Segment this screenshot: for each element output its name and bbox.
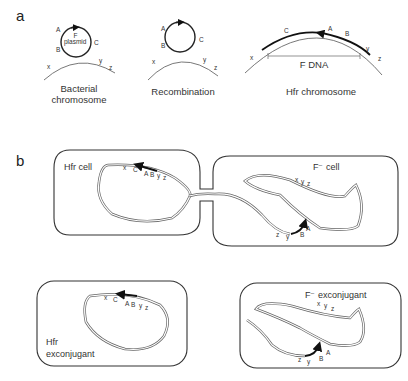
hfr-arrow-icon bbox=[319, 33, 324, 34]
gene-A: A bbox=[125, 300, 130, 307]
gene-z: z bbox=[163, 174, 166, 181]
gene-z: z bbox=[298, 356, 301, 363]
plasmid-arrow-icon bbox=[71, 27, 77, 28]
gene-x: x bbox=[250, 54, 254, 61]
caption-hfr-chromosome: Hfr chromosome bbox=[286, 86, 356, 97]
caption-recombination: Recombination bbox=[151, 86, 214, 97]
hfr-exconjugant-label-2: exconjugant bbox=[46, 349, 95, 359]
stage-hfr-chromosome: C A B x y z F DNA Hfr chromosome bbox=[245, 25, 382, 97]
f-minus-cell-chromosome: x y z z y B A bbox=[245, 175, 362, 241]
gene-B: B bbox=[131, 301, 135, 308]
f-minus-exconjugant-label: F⁻ exconjugant bbox=[305, 290, 367, 300]
gene-A: A bbox=[306, 225, 311, 232]
panel-a-label: a bbox=[16, 7, 25, 24]
gene-A: A bbox=[328, 25, 333, 32]
plasmid-circle bbox=[165, 22, 195, 52]
gene-z: z bbox=[307, 180, 310, 187]
gene-y: y bbox=[307, 358, 311, 366]
gene-C: C bbox=[133, 166, 138, 173]
gene-B: B bbox=[150, 171, 154, 178]
hfr-exconjugant: x C A B y z Hfr exconjugant bbox=[37, 281, 187, 366]
hfr-cell-label: Hfr cell bbox=[64, 162, 92, 172]
f-minus-exconjugant-arrow-icon bbox=[305, 345, 319, 356]
gene-z: z bbox=[276, 231, 279, 238]
f-minus-exconjugant: F⁻ exconjugant x y z z y B A bbox=[240, 283, 401, 368]
gene-z: z bbox=[145, 304, 148, 311]
gene-C: C bbox=[94, 39, 99, 46]
gene-x: x bbox=[47, 63, 51, 70]
gene-y: y bbox=[203, 56, 207, 64]
gene-C: C bbox=[113, 296, 118, 303]
gene-A: A bbox=[56, 26, 61, 33]
stage-recombination: A B C x y z Recombination bbox=[148, 22, 218, 97]
gene-B: B bbox=[56, 46, 60, 53]
gene-A: A bbox=[161, 25, 166, 32]
gene-B: B bbox=[345, 30, 349, 37]
caption-bacterial: Bacterial bbox=[61, 83, 98, 94]
stage-bacterial-chromosome: F plasmid A B C x y z Bacterial chromoso… bbox=[44, 26, 115, 105]
gene-y: y bbox=[324, 302, 328, 310]
bacterial-chromosome-arc bbox=[44, 63, 115, 80]
gene-A: A bbox=[144, 170, 149, 177]
recombination-chromosome-arc bbox=[148, 62, 218, 80]
gene-z: z bbox=[378, 55, 381, 62]
plasmid-label: plasmid bbox=[64, 38, 87, 46]
gene-x: x bbox=[295, 176, 299, 183]
f-dna-thick-segment bbox=[262, 32, 370, 55]
gene-A: A bbox=[326, 349, 331, 356]
f-dna-label: F DNA bbox=[300, 59, 329, 70]
gene-B: B bbox=[161, 42, 165, 49]
gene-z: z bbox=[109, 64, 112, 71]
gene-y: y bbox=[157, 172, 161, 180]
gene-y: y bbox=[139, 302, 143, 310]
panel-b-label: b bbox=[16, 152, 24, 169]
caption-chromosome: chromosome bbox=[52, 94, 107, 105]
gene-z: z bbox=[331, 305, 334, 312]
gene-C: C bbox=[284, 27, 289, 34]
conjugation-diagram: a F plasmid A B C x y z Bacterial chromo… bbox=[0, 0, 408, 381]
gene-y: y bbox=[99, 57, 103, 65]
hfr-exconjugant-label-1: Hfr bbox=[46, 337, 58, 347]
gene-y: y bbox=[301, 178, 305, 186]
gene-z: z bbox=[214, 64, 217, 71]
gene-y: y bbox=[366, 45, 370, 53]
gene-x: x bbox=[152, 58, 156, 65]
gene-x: x bbox=[317, 300, 321, 307]
f-minus-cell-label: F⁻ cell bbox=[313, 162, 340, 172]
gene-C: C bbox=[199, 36, 204, 43]
gene-B: B bbox=[319, 355, 323, 362]
gene-B: B bbox=[300, 231, 304, 238]
